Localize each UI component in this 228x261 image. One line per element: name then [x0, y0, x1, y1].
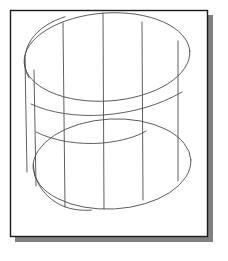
screenshot-canvas: Cylinder Wireframe Drawing Line drawing … [0, 0, 228, 261]
cylinder-figure [0, 0, 228, 261]
